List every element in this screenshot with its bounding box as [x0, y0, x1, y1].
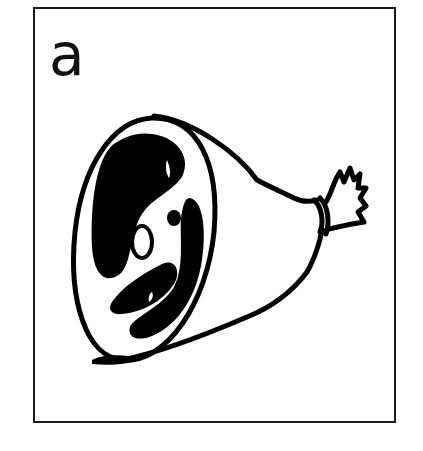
flashcard: a	[33, 7, 396, 423]
ham-icon	[35, 9, 394, 421]
